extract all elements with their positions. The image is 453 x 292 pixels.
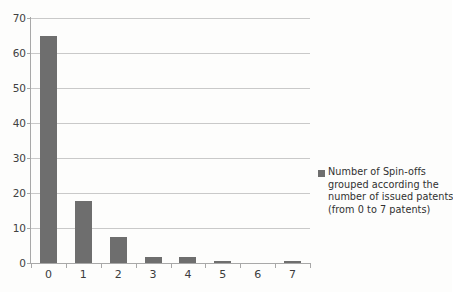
y-axis-tick-label: 50: [0, 83, 26, 93]
y-axis-tick-label: 10: [0, 223, 26, 233]
legend-label: Number of Spin-offs grouped according th…: [328, 166, 453, 216]
bar: [110, 237, 127, 263]
gridline: [31, 88, 310, 89]
gridline: [31, 18, 310, 19]
legend-color-swatch: [318, 170, 325, 177]
y-axis-tick-label: 60: [0, 48, 26, 58]
gridline: [31, 158, 310, 159]
x-axis-tick-label: 1: [68, 268, 98, 281]
x-axis-tick-mark: [240, 264, 241, 268]
y-axis-tick-label: 20: [0, 188, 26, 198]
x-axis-tick-mark: [310, 264, 311, 268]
gridline: [31, 123, 310, 124]
x-axis-tick-label: 5: [208, 268, 238, 281]
x-axis-tick-label: 3: [138, 268, 168, 281]
x-axis-tick-label: 7: [278, 268, 308, 281]
x-axis-tick-mark: [171, 264, 172, 268]
plot-area: [31, 18, 310, 263]
y-axis-tick-label: 70: [0, 13, 26, 23]
bar: [75, 201, 92, 263]
x-axis-tick-mark: [275, 264, 276, 268]
gridline: [31, 228, 310, 229]
legend-label-line: number of issued patents: [328, 191, 453, 204]
x-axis-tick-label: 0: [33, 268, 63, 281]
legend-label-line: (from 0 to 7 patents): [328, 204, 453, 217]
x-axis-tick-mark: [136, 264, 137, 268]
gridline: [31, 53, 310, 54]
legend-label-line: Number of Spin-offs: [328, 166, 453, 179]
legend-label-line: grouped according the: [328, 179, 453, 192]
x-axis-tick-mark: [205, 264, 206, 268]
chart-legend: Number of Spin-offs grouped according th…: [318, 166, 450, 216]
x-axis-tick-mark: [101, 264, 102, 268]
y-axis-tick-label: 0: [0, 258, 26, 268]
y-axis-tick-label: 40: [0, 118, 26, 128]
gridline: [31, 193, 310, 194]
x-axis-tick-label: 2: [103, 268, 133, 281]
x-axis-tick-label: 4: [173, 268, 203, 281]
x-axis-tick-label: 6: [243, 268, 273, 281]
x-axis-tick-mark: [66, 264, 67, 268]
x-axis-tick-mark: [31, 264, 32, 268]
y-axis-tick-label: 30: [0, 153, 26, 163]
bar: [40, 36, 57, 264]
